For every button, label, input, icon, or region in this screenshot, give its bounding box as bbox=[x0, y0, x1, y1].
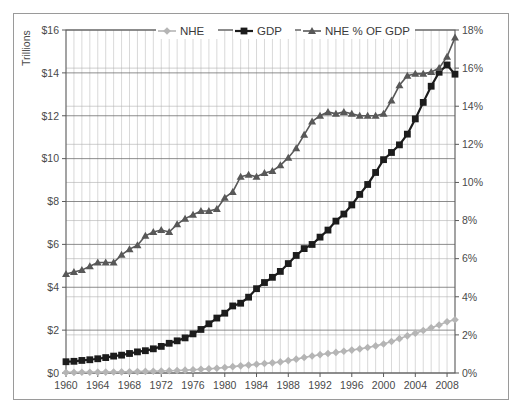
data-point-marker bbox=[158, 343, 165, 350]
data-point-marker bbox=[150, 345, 157, 352]
data-point-marker bbox=[261, 279, 268, 286]
data-point-marker bbox=[340, 211, 347, 218]
data-point-marker bbox=[78, 357, 85, 364]
data-point-marker bbox=[94, 355, 101, 362]
data-point-marker bbox=[221, 310, 228, 317]
data-point-marker bbox=[293, 252, 300, 259]
data-point-marker bbox=[126, 350, 133, 357]
data-point-marker bbox=[71, 358, 78, 365]
y-axis-tick-label-left: $12 bbox=[41, 110, 59, 122]
y-axis-tick-label-right: 6% bbox=[462, 252, 477, 264]
data-point-marker bbox=[237, 300, 244, 307]
data-point-marker bbox=[404, 131, 411, 138]
data-point-marker bbox=[420, 99, 427, 106]
y-axis-tick-label-left: $10 bbox=[41, 152, 59, 164]
legend-label: NHE % OF GDP bbox=[325, 25, 410, 37]
y-axis-tick-label-right: 18% bbox=[462, 24, 483, 36]
data-point-marker bbox=[356, 191, 363, 198]
x-axis-tick-label: 1968 bbox=[118, 379, 142, 391]
data-point-marker bbox=[325, 227, 332, 234]
x-axis-tick-label: 1960 bbox=[54, 379, 78, 391]
data-point-marker bbox=[229, 303, 236, 310]
y-axis-title: Trillions bbox=[20, 30, 32, 66]
data-point-marker bbox=[269, 274, 276, 281]
y-axis-tick-label-right: 16% bbox=[462, 62, 483, 74]
x-axis-tick-label: 2008 bbox=[435, 379, 459, 391]
data-point-marker bbox=[301, 245, 308, 252]
data-point-marker bbox=[380, 156, 387, 163]
y-axis-tick-label-left: $6 bbox=[47, 238, 59, 250]
data-point-marker bbox=[348, 202, 355, 209]
data-point-marker bbox=[205, 320, 212, 327]
y-axis-tick-label-right: 14% bbox=[462, 100, 483, 112]
data-point-marker bbox=[428, 83, 435, 90]
y-axis-tick-label-right: 2% bbox=[462, 329, 477, 341]
x-axis-tick-label: 1984 bbox=[245, 379, 269, 391]
data-point-marker bbox=[110, 353, 117, 360]
data-point-marker bbox=[241, 28, 248, 35]
data-point-marker bbox=[134, 348, 141, 355]
data-point-marker bbox=[245, 294, 252, 301]
data-point-marker bbox=[309, 241, 316, 248]
data-point-marker bbox=[166, 340, 173, 347]
x-axis-tick-label: 1980 bbox=[213, 379, 237, 391]
data-point-marker bbox=[452, 71, 459, 78]
data-point-marker bbox=[396, 141, 403, 148]
data-point-marker bbox=[253, 285, 260, 292]
nhe-gdp-line-chart: $0$2$4$6$8$10$12$14$160%2%4%6%8%10%12%14… bbox=[14, 14, 508, 399]
x-axis-tick-label: 1964 bbox=[86, 379, 110, 391]
legend-label: NHE bbox=[180, 25, 205, 37]
y-axis-tick-label-left: $0 bbox=[47, 367, 59, 379]
legend-label: GDP bbox=[257, 25, 282, 37]
data-point-marker bbox=[277, 268, 284, 275]
x-axis-tick-label: 2004 bbox=[404, 379, 428, 391]
data-point-marker bbox=[333, 218, 340, 225]
x-axis-tick-label: 1976 bbox=[181, 379, 205, 391]
data-point-marker bbox=[372, 169, 379, 176]
y-axis-tick-label-right: 10% bbox=[462, 176, 483, 188]
y-axis-tick-label-right: 12% bbox=[462, 138, 483, 150]
data-point-marker bbox=[213, 315, 220, 322]
data-point-marker bbox=[388, 149, 395, 156]
data-point-marker bbox=[142, 347, 149, 354]
data-point-marker bbox=[285, 260, 292, 267]
y-axis-tick-label-left: $14 bbox=[41, 67, 59, 79]
data-point-marker bbox=[444, 62, 451, 69]
data-point-marker bbox=[118, 352, 125, 359]
y-axis-tick-label-left: $8 bbox=[47, 195, 59, 207]
data-point-marker bbox=[63, 358, 70, 365]
x-axis-tick-label: 1992 bbox=[308, 379, 332, 391]
x-axis-tick-label: 2000 bbox=[372, 379, 396, 391]
data-point-marker bbox=[317, 234, 324, 241]
chart-legend: NHEGDPNHE % OF GDP bbox=[156, 22, 415, 39]
x-axis-tick-label: 1996 bbox=[340, 379, 364, 391]
y-axis-tick-label-left: $4 bbox=[47, 281, 59, 293]
x-axis-tick-label: 1972 bbox=[150, 379, 174, 391]
chart-frame: $0$2$4$6$8$10$12$14$160%2%4%6%8%10%12%14… bbox=[13, 13, 509, 400]
y-axis-tick-label-right: 0% bbox=[462, 367, 477, 379]
data-point-marker bbox=[174, 337, 181, 344]
data-point-marker bbox=[364, 181, 371, 188]
y-axis-tick-label-right: 4% bbox=[462, 291, 477, 303]
data-point-marker bbox=[198, 326, 205, 333]
data-point-marker bbox=[102, 354, 109, 361]
data-point-marker bbox=[86, 356, 93, 363]
y-axis-tick-label-right: 8% bbox=[462, 214, 477, 226]
y-axis-tick-label-left: $2 bbox=[47, 324, 59, 336]
data-point-marker bbox=[190, 330, 197, 337]
data-point-marker bbox=[412, 116, 419, 123]
y-axis-tick-label-left: $16 bbox=[41, 24, 59, 36]
data-point-marker bbox=[182, 334, 189, 341]
x-axis-tick-label: 1988 bbox=[277, 379, 301, 391]
